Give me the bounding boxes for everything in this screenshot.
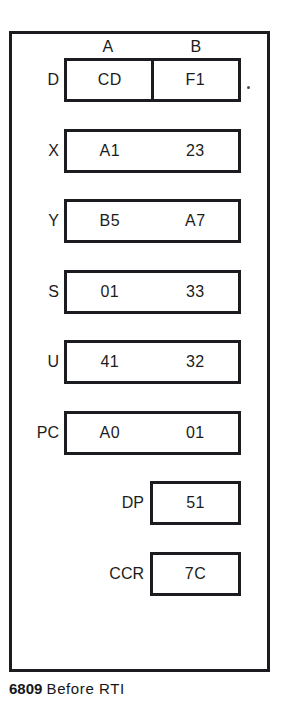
register-box-y: B5A7	[64, 199, 241, 243]
register-label-u: U	[12, 340, 59, 384]
register-cells: B5A7	[67, 202, 238, 240]
register-value: B5	[67, 202, 153, 240]
register-box-u: 4132	[64, 340, 241, 384]
register-cells: A123	[67, 132, 238, 170]
register-row: PCA001	[0, 411, 285, 455]
register-row: XA123	[0, 129, 285, 173]
register-value: 7C	[153, 555, 238, 593]
register-label-y: Y	[12, 199, 59, 243]
register-row: DCDF1	[0, 58, 285, 102]
register-row: YB5A7	[0, 199, 285, 243]
register-box-ccr: 7C	[150, 552, 241, 596]
register-label-pc: PC	[12, 411, 59, 455]
caption-cpu-code: 6809	[9, 680, 42, 697]
register-cells: 7C	[153, 555, 238, 593]
register-cells: 0133	[67, 273, 238, 311]
register-value: 32	[153, 343, 239, 381]
column-header-a: A	[88, 38, 128, 56]
register-value: CD	[67, 61, 153, 99]
register-label-dp: DP	[82, 481, 144, 525]
register-value: A1	[67, 132, 153, 170]
column-header-b: B	[176, 38, 216, 56]
register-cells: CDF1	[67, 61, 238, 99]
register-cells: A001	[67, 414, 238, 452]
register-value: 33	[153, 273, 239, 311]
register-value: 41	[67, 343, 153, 381]
register-box-pc: A001	[64, 411, 241, 455]
register-value: 01	[67, 273, 153, 311]
register-row: CCR7C	[0, 552, 285, 596]
register-row: DP51	[0, 481, 285, 525]
register-label-x: X	[12, 129, 59, 173]
register-row: S0133	[0, 270, 285, 314]
register-label-s: S	[12, 270, 59, 314]
scan-artifact-speck	[247, 86, 250, 89]
register-box-dp: 51	[150, 481, 241, 525]
register-box-d: CDF1	[64, 58, 241, 102]
register-value: 23	[153, 132, 239, 170]
register-value: 01	[153, 414, 239, 452]
register-value: A7	[153, 202, 239, 240]
register-value: A0	[67, 414, 153, 452]
register-box-s: 0133	[64, 270, 241, 314]
register-row: U4132	[0, 340, 285, 384]
caption-description: Before RTI	[47, 680, 125, 697]
register-cells: 51	[153, 484, 238, 522]
register-box-x: A123	[64, 129, 241, 173]
register-value: F1	[153, 61, 239, 99]
register-value: 51	[153, 484, 238, 522]
figure-caption: 6809 Before RTI	[9, 680, 279, 697]
register-label-ccr: CCR	[82, 552, 144, 596]
register-label-d: D	[12, 58, 59, 102]
register-cells: 4132	[67, 343, 238, 381]
